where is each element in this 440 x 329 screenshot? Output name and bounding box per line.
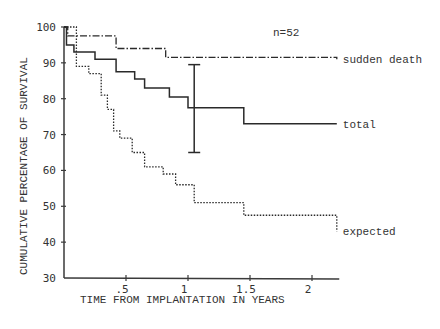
- x-axis-line: [64, 278, 339, 279]
- y-tick-label: 90: [43, 57, 56, 70]
- series-total-line: [64, 27, 337, 124]
- y-tick-label: 70: [43, 129, 56, 142]
- sample-size-annotation: n=52: [273, 27, 299, 39]
- series-label-sudden-death: sudden death: [343, 54, 422, 66]
- x-tick-label: 2: [305, 283, 312, 296]
- series-label-expected: expected: [343, 226, 396, 238]
- y-tick-label: 50: [43, 200, 56, 213]
- y-tick-label: 80: [43, 93, 56, 106]
- axes: 30405060708090100.511.52: [36, 21, 339, 296]
- survival-chart: 30405060708090100.511.52 sudden deathtot…: [0, 0, 440, 329]
- series-lines: sudden deathtotalexpected: [64, 27, 422, 238]
- y-tick-label: 100: [36, 21, 56, 34]
- y-tick-label: 30: [43, 272, 56, 285]
- series-label-total: total: [343, 119, 376, 131]
- x-axis-title: TIME FROM IMPLANTATION IN YEARS: [80, 294, 285, 306]
- y-axis-title: CUMULATIVE PERCENTAGE OF SURVIVAL: [18, 57, 30, 275]
- y-tick-label: 60: [43, 164, 56, 177]
- y-tick-label: 40: [43, 236, 56, 249]
